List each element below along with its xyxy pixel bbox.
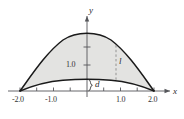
figure-container: -2.0 -1.0 1.0 2.0 1.0 x y l d (0, 0, 184, 119)
x-tick-label-pos1: 1.0 (116, 96, 125, 104)
y-tick-label-1: 1.0 (66, 61, 75, 69)
y-axis-label: y (89, 6, 93, 15)
x-tick-label-neg2: -2.0 (12, 96, 24, 104)
depth-brace (89, 80, 93, 91)
y-axis-arrowhead (85, 16, 89, 22)
x-axis-label: x (173, 87, 177, 96)
x-axis-arrowhead (165, 89, 171, 93)
length-label: l (119, 57, 121, 66)
depth-label: d (95, 80, 99, 89)
x-tick-label-neg1: -1.0 (45, 96, 57, 104)
x-tick-label-pos2: 2.0 (148, 96, 157, 104)
